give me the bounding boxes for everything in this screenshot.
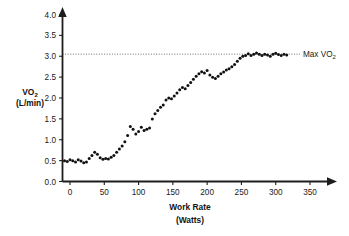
data-point [230, 65, 233, 68]
y-axis-units: (L/min) [16, 98, 44, 108]
data-point [178, 88, 181, 91]
data-point [236, 60, 239, 63]
data-point [181, 86, 184, 89]
data-point [173, 94, 176, 97]
data-point [115, 151, 118, 154]
data-point [250, 54, 253, 57]
data-point [79, 160, 82, 163]
data-point [186, 84, 189, 87]
data-point [211, 76, 214, 79]
x-axis-arrow [327, 177, 337, 185]
data-point [222, 71, 225, 74]
x-tick-label: 300 [269, 188, 283, 197]
data-point [77, 158, 80, 161]
data-point [277, 53, 280, 56]
data-point [107, 157, 110, 160]
x-axis-title-group: Work Rate (Watts) [169, 202, 211, 225]
x-tick-label: 0 [68, 188, 73, 197]
data-point [239, 57, 242, 60]
data-point [219, 72, 222, 75]
data-point [282, 53, 285, 56]
data-point [99, 156, 102, 159]
data-point [214, 77, 217, 80]
data-point [258, 53, 261, 56]
data-point [143, 129, 146, 132]
data-point [206, 69, 209, 72]
data-point [137, 130, 140, 133]
y-axis-title: VO2 [22, 87, 38, 98]
data-point [203, 71, 206, 74]
y-tick-label: 3.0 [45, 52, 57, 61]
y-tick-label: 2.5 [45, 73, 57, 82]
data-point [266, 53, 269, 56]
data-point [118, 147, 121, 150]
data-point [82, 161, 85, 164]
data-point [148, 127, 151, 130]
y-tick-label: 1.0 [45, 136, 57, 145]
max-vo2-label: Max VO2 [303, 50, 337, 60]
data-point [280, 54, 283, 57]
data-point [241, 55, 244, 58]
data-point [228, 67, 231, 70]
data-point [101, 158, 104, 161]
data-point [195, 75, 198, 78]
data-point [134, 132, 137, 135]
vo2-work-rate-chart: 0.00.51.01.52.02.53.03.54.0 050100150200… [0, 0, 349, 236]
data-point [252, 53, 255, 56]
data-point [261, 54, 264, 57]
data-point [263, 53, 266, 56]
x-axis-title: Work Rate [169, 202, 211, 212]
data-point [71, 159, 74, 162]
x-axis-units: (Watts) [176, 215, 204, 225]
data-point [162, 104, 165, 107]
y-tick-label: 0.0 [45, 178, 57, 187]
data-point [145, 128, 148, 131]
data-point [90, 154, 93, 157]
data-point [269, 55, 272, 58]
data-point [93, 151, 96, 154]
data-point [66, 160, 69, 163]
data-point [69, 158, 72, 161]
data-point [88, 157, 91, 160]
data-point [170, 97, 173, 100]
y-axis-ticks: 0.00.51.01.52.02.53.03.54.0 [45, 11, 63, 187]
data-point [200, 70, 203, 73]
y-tick-label: 2.0 [45, 94, 57, 103]
y-tick-label: 4.0 [45, 11, 57, 20]
y-axis-arrow [58, 7, 66, 17]
x-tick-label: 200 [200, 188, 214, 197]
data-point [156, 109, 159, 112]
data-point [197, 72, 200, 75]
data-point [123, 140, 126, 143]
data-point [255, 51, 258, 54]
x-tick-label: 50 [100, 188, 110, 197]
data-point [167, 97, 170, 100]
data-point [159, 106, 162, 109]
y-tick-label: 1.5 [45, 115, 57, 124]
data-point [274, 52, 277, 55]
data-point [217, 75, 220, 78]
data-point [154, 112, 157, 115]
x-tick-label: 150 [166, 188, 180, 197]
chart-canvas: 0.00.51.01.52.02.53.03.54.0 050100150200… [0, 0, 349, 236]
data-point [129, 125, 132, 128]
data-point [247, 52, 250, 55]
data-point [151, 117, 154, 120]
x-axis-ticks: 050100150200250300350 [68, 182, 318, 197]
data-point [126, 134, 129, 137]
data-point [225, 69, 228, 72]
y-tick-label: 3.5 [45, 31, 57, 40]
data-point [192, 78, 195, 81]
data-point [175, 91, 178, 94]
data-point [121, 145, 124, 148]
data-point-group [63, 51, 288, 164]
x-tick-label: 250 [235, 188, 249, 197]
data-point [112, 154, 115, 157]
data-point [244, 54, 247, 57]
data-point [140, 126, 143, 129]
data-point [74, 160, 77, 163]
data-point [63, 159, 66, 162]
data-point [233, 63, 236, 66]
x-tick-label: 350 [303, 188, 317, 197]
data-point [85, 160, 88, 163]
